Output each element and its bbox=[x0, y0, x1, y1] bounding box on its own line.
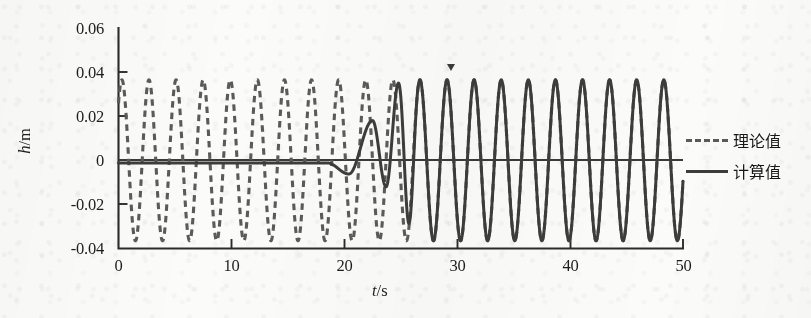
plot-marker-arrow-icon bbox=[447, 64, 455, 71]
legend-item-computed: 计算值 bbox=[686, 159, 781, 183]
y-tick-label-1: 0.04 bbox=[20, 63, 104, 83]
y-tick-label-0: 0.06 bbox=[20, 19, 104, 39]
x-axis-title: t/s bbox=[372, 281, 388, 301]
legend-label-computed: 计算值 bbox=[733, 159, 781, 183]
legend-swatch-dashed-icon bbox=[686, 139, 728, 142]
x-tick-label-5: 50 bbox=[668, 256, 699, 276]
x-tick-label-0: 0 bbox=[108, 256, 129, 276]
y-tick-label-5: -0.04 bbox=[20, 239, 104, 259]
figure-container: 0.06 0.04 0.02 0 -0.02 -0.04 0 10 20 30 … bbox=[0, 0, 811, 318]
x-tick-label-3: 30 bbox=[442, 256, 473, 276]
y-axis-title-var: h bbox=[15, 146, 34, 154]
y-axis-title-unit: /m bbox=[15, 128, 34, 145]
x-axis-title-unit: /s bbox=[377, 281, 388, 300]
x-tick-label-2: 20 bbox=[329, 256, 360, 276]
legend-swatch-solid-icon bbox=[686, 170, 728, 173]
y-axis-title: h/m bbox=[15, 111, 35, 171]
x-tick-label-1: 10 bbox=[216, 256, 247, 276]
y-tick-label-4: -0.02 bbox=[20, 195, 104, 215]
legend-label-theoretical: 理论值 bbox=[733, 128, 781, 152]
x-tick-label-4: 40 bbox=[555, 256, 586, 276]
legend-item-theoretical: 理论值 bbox=[686, 128, 781, 152]
chart-legend: 理论值 计算值 bbox=[686, 128, 781, 183]
